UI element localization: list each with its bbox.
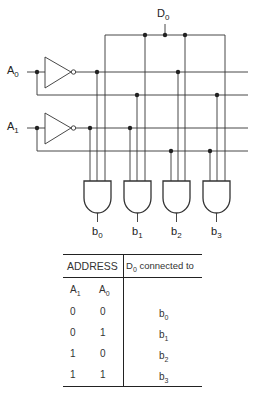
row1-a1: 0 — [70, 327, 76, 338]
row3-out: b3 — [159, 371, 168, 384]
and-gate-2-icon — [163, 181, 190, 213]
row0-a1: 0 — [70, 306, 76, 317]
address-table: ADDRESS D0 connected to A1 A0 0 0 b0 0 1… — [63, 254, 202, 387]
row0-a0: 0 — [100, 306, 106, 317]
and-gate-0-icon — [84, 181, 111, 213]
a1-label: A1 — [7, 120, 19, 135]
b3-label: b3 — [211, 225, 222, 240]
a1-line — [37, 128, 248, 151]
inverter-a1-icon — [45, 113, 71, 144]
col-a1-header: A1 — [70, 284, 81, 297]
row1-out: b1 — [159, 329, 168, 342]
address-header: ADDRESS — [67, 260, 118, 272]
inverter-a0-icon — [45, 57, 71, 88]
a0-label: A0 — [7, 64, 19, 79]
d0-label: D0 — [157, 7, 169, 22]
row2-a1: 1 — [70, 348, 76, 359]
row3-a0: 1 — [100, 369, 106, 380]
row2-a0: 0 — [100, 348, 106, 359]
row3-a1: 1 — [70, 369, 76, 380]
junction-dots — [35, 33, 219, 153]
row2-out: b2 — [159, 350, 168, 363]
and-gate-1-icon — [124, 181, 151, 213]
a0-line — [37, 72, 248, 95]
b0-label: b0 — [92, 225, 103, 240]
col-a0-header: A0 — [99, 284, 110, 297]
row0-out: b0 — [159, 308, 168, 321]
d0-connected-header: D0 connected to — [126, 260, 194, 273]
and-gate-3-icon — [203, 181, 230, 213]
b2-label: b2 — [171, 225, 182, 240]
b1-label: b1 — [132, 225, 143, 240]
row1-a0: 1 — [100, 327, 106, 338]
